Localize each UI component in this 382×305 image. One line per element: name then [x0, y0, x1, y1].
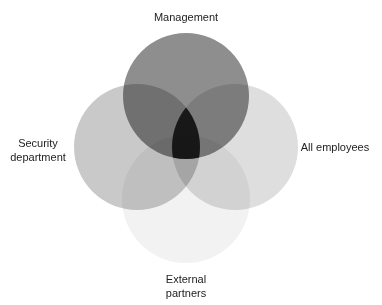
all-employees-label: All employees — [300, 140, 370, 154]
management-label: Management — [146, 10, 226, 24]
security-label-line2: department — [0, 150, 76, 164]
security-label-line1: Security — [0, 136, 76, 150]
security-department-label: Security department — [0, 136, 76, 164]
external-label-line1: External — [150, 272, 222, 286]
external-label-line2: partners — [150, 286, 222, 300]
external-partners-label: External partners — [150, 272, 222, 300]
